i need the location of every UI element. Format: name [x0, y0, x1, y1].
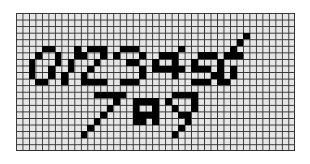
filled-cell[interactable] — [42, 79, 48, 86]
pixel-grid-canvas[interactable] — [16, 13, 295, 151]
filled-cell[interactable] — [100, 112, 106, 119]
filled-cell[interactable] — [178, 46, 184, 53]
filled-cell[interactable] — [48, 46, 54, 53]
filled-cell[interactable] — [139, 66, 145, 73]
filled-cell[interactable] — [48, 66, 54, 73]
filled-cell[interactable] — [191, 92, 197, 99]
filled-cell[interactable] — [191, 105, 197, 112]
filled-cell[interactable] — [94, 59, 100, 66]
filled-cell[interactable] — [107, 105, 113, 112]
filled-cell[interactable] — [133, 79, 139, 86]
filled-cell[interactable] — [48, 72, 54, 79]
filled-cell[interactable] — [113, 52, 119, 59]
filled-cell[interactable] — [243, 33, 249, 40]
filled-cell[interactable] — [152, 118, 158, 125]
filled-cell[interactable] — [230, 66, 236, 73]
filled-cell[interactable] — [152, 105, 158, 112]
filled-cell[interactable] — [237, 52, 243, 59]
filled-cell[interactable] — [29, 72, 35, 79]
filled-cell[interactable] — [217, 66, 223, 73]
filled-cell[interactable] — [172, 72, 178, 79]
filled-cell[interactable] — [100, 92, 106, 99]
filled-cell[interactable] — [113, 98, 119, 105]
filled-cell[interactable] — [100, 79, 106, 86]
filled-cell[interactable] — [237, 39, 243, 46]
filled-cell[interactable] — [230, 72, 236, 79]
filled-cell[interactable] — [120, 92, 126, 99]
filled-cell[interactable] — [172, 92, 178, 99]
filled-cell[interactable] — [224, 79, 230, 86]
filled-cell[interactable] — [94, 118, 100, 125]
filled-cell[interactable] — [185, 118, 191, 125]
filled-cell[interactable] — [172, 131, 178, 138]
filled-cell[interactable] — [159, 52, 165, 59]
filled-cell[interactable] — [81, 52, 87, 59]
filled-cell[interactable] — [87, 125, 93, 132]
filled-cell[interactable] — [211, 52, 217, 59]
filled-cell[interactable] — [68, 66, 74, 73]
filled-cell[interactable] — [204, 66, 210, 73]
filled-cell[interactable] — [139, 98, 145, 105]
filled-cell[interactable] — [191, 79, 197, 86]
filled-cell[interactable] — [55, 59, 61, 66]
filled-cell[interactable] — [87, 79, 93, 86]
filled-cell[interactable] — [133, 105, 139, 112]
filled-cell[interactable] — [172, 52, 178, 59]
filled-cell[interactable] — [159, 66, 165, 73]
filled-cell[interactable] — [87, 66, 93, 73]
filled-cell[interactable] — [29, 66, 35, 73]
filled-cell[interactable] — [120, 46, 126, 53]
filled-cell[interactable] — [230, 52, 236, 59]
filled-cell[interactable] — [139, 52, 145, 59]
filled-cell[interactable] — [191, 66, 197, 73]
filled-cell[interactable] — [55, 52, 61, 59]
filled-cell[interactable] — [204, 79, 210, 86]
filled-cell[interactable] — [100, 52, 106, 59]
filled-cell[interactable] — [172, 105, 178, 112]
filled-cell[interactable] — [120, 79, 126, 86]
filled-cell[interactable] — [61, 79, 67, 86]
filled-cell[interactable] — [178, 66, 184, 73]
filled-cell[interactable] — [211, 72, 217, 79]
filled-cell[interactable] — [139, 118, 145, 125]
filled-cell[interactable] — [172, 66, 178, 73]
filled-cell[interactable] — [35, 52, 41, 59]
filled-cell[interactable] — [139, 72, 145, 79]
filled-cell[interactable] — [87, 46, 93, 53]
filled-cell[interactable] — [178, 125, 184, 132]
filled-cell[interactable] — [81, 131, 87, 138]
